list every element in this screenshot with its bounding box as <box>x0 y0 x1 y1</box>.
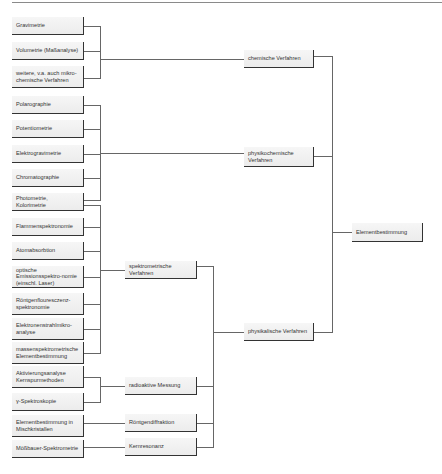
node-label: physikochemische Verfahren <box>248 150 309 163</box>
node-label: Mößbauer-Spektrometrie <box>16 445 78 451</box>
node-label: chemische Verfahren <box>248 55 301 61</box>
connector <box>197 423 214 424</box>
node-radioaktive: radioaktive Messung <box>125 377 197 395</box>
node-label: Flammenspektronomie <box>16 223 73 229</box>
connector <box>197 386 214 387</box>
node-label: Röntgendiffraktion <box>129 419 174 425</box>
node-physikalische: physikalische Verfahren <box>244 323 314 341</box>
node-moessbauer: Mößbauer-Spektrometrie <box>12 440 84 458</box>
node-chemische: chemische Verfahren <box>244 50 314 68</box>
node-elektrogravimetrie: Elektrogravimetrie <box>12 145 84 163</box>
connector <box>100 377 101 403</box>
node-label: optische Emissionsspektro-nomie (einschl… <box>16 267 79 286</box>
connector <box>84 277 101 278</box>
connector <box>84 154 101 155</box>
connector <box>84 129 101 130</box>
node-label: spektrometrische Verfahren <box>129 263 192 276</box>
connector <box>84 377 101 378</box>
node-label: massenspektrometrische Elementbestimmung <box>16 346 79 359</box>
connector <box>332 232 352 233</box>
connector <box>100 59 244 60</box>
connector <box>84 402 101 403</box>
connector <box>84 200 101 201</box>
node-label: Potentiometrie <box>16 125 52 131</box>
node-spektrometrische: spektrometrische Verfahren <box>125 261 197 279</box>
connector <box>314 332 333 333</box>
connector <box>84 353 101 354</box>
node-label: γ-Spektroskopie <box>16 398 56 404</box>
connector <box>213 266 214 448</box>
node-volumetrie: Volumetrie (Maßanalyse) <box>12 42 84 60</box>
node-flammen: Flammenspektronomie <box>12 218 84 236</box>
node-label: Röntgenflouresczenz-spektronomie <box>16 297 79 310</box>
connector <box>84 447 125 448</box>
node-label: Elementbestimmung <box>356 229 407 235</box>
connector <box>314 156 333 157</box>
node-label: Polarographie <box>16 101 51 107</box>
node-physikochemische: physikochemische Verfahren <box>244 147 314 167</box>
node-label: Kernresonanz <box>129 443 164 449</box>
node-gravimetrie: Gravimetrie <box>12 17 84 35</box>
node-label: Aktivierungsanalyse Kernspurmethoden <box>16 370 79 383</box>
connector <box>84 51 101 52</box>
node-label: weitere, v.a. auch mikro-chemische Verfa… <box>16 70 79 83</box>
node-label: radioaktive Messung <box>129 382 180 388</box>
connector <box>84 304 101 305</box>
node-elektronenstrahl: Elektronenstrahlmikro-analyse <box>12 318 84 340</box>
connector <box>84 329 101 330</box>
node-potentiometrie: Potentiometrie <box>12 120 84 138</box>
node-label: Atomabsorbtion <box>16 247 55 253</box>
node-aktivierung: Aktivierungsanalyse Kernspurmethoden <box>12 366 84 388</box>
connector <box>100 270 125 271</box>
node-weitere: weitere, v.a. auch mikro-chemische Verfa… <box>12 66 84 88</box>
node-photometrie: Photometrie, Kolorimetrie <box>12 193 84 211</box>
connector <box>84 251 101 252</box>
node-polarographie: Polarographie <box>12 96 84 114</box>
connector <box>84 205 101 206</box>
node-mischkristalle: Elementbestimmung in Mischkristallen <box>12 415 84 437</box>
node-elementbestimmung: Elementbestimmung <box>352 223 423 242</box>
node-label: Elektrogravimetrie <box>16 150 61 156</box>
node-label: Photometrie, Kolorimetrie <box>16 195 79 208</box>
connector <box>84 178 101 179</box>
node-chromatographie: Chromatographie <box>12 169 84 187</box>
connector <box>314 56 333 57</box>
node-massenspektro: massenspektrometrische Elementbestimmung <box>12 342 84 364</box>
connector <box>84 105 101 106</box>
node-label: Elektronenstrahlmikro-analyse <box>16 322 79 335</box>
node-gamma: γ-Spektroskopie <box>12 393 84 411</box>
node-roentgenfluor: Röntgenflouresczenz-spektronomie <box>12 293 84 315</box>
connector <box>100 205 101 354</box>
node-atomabsorbtion: Atomabsorbtion <box>12 242 84 260</box>
connector <box>84 227 101 228</box>
top-rule <box>12 2 442 3</box>
node-roentgendiffraktion: Röntgendiffraktion <box>125 414 197 432</box>
node-label: physikalische Verfahren <box>248 328 307 334</box>
node-label: Volumetrie (Maßanalyse) <box>16 47 78 53</box>
connector <box>84 423 125 424</box>
node-label: Chromatographie <box>16 174 59 180</box>
node-label: Gravimetrie <box>16 22 45 28</box>
connector <box>197 447 214 448</box>
connector <box>197 266 214 267</box>
connector <box>100 26 101 79</box>
connector <box>213 332 244 333</box>
connector <box>100 386 125 387</box>
connector <box>84 78 101 79</box>
connector <box>100 153 244 154</box>
connector <box>84 26 101 27</box>
node-kernresonanz: Kernresonanz <box>125 438 197 456</box>
connector <box>332 56 333 333</box>
node-label: Elementbestimmung in Mischkristallen <box>16 419 79 432</box>
node-optische: optische Emissionsspektro-nomie (einschl… <box>12 266 84 288</box>
